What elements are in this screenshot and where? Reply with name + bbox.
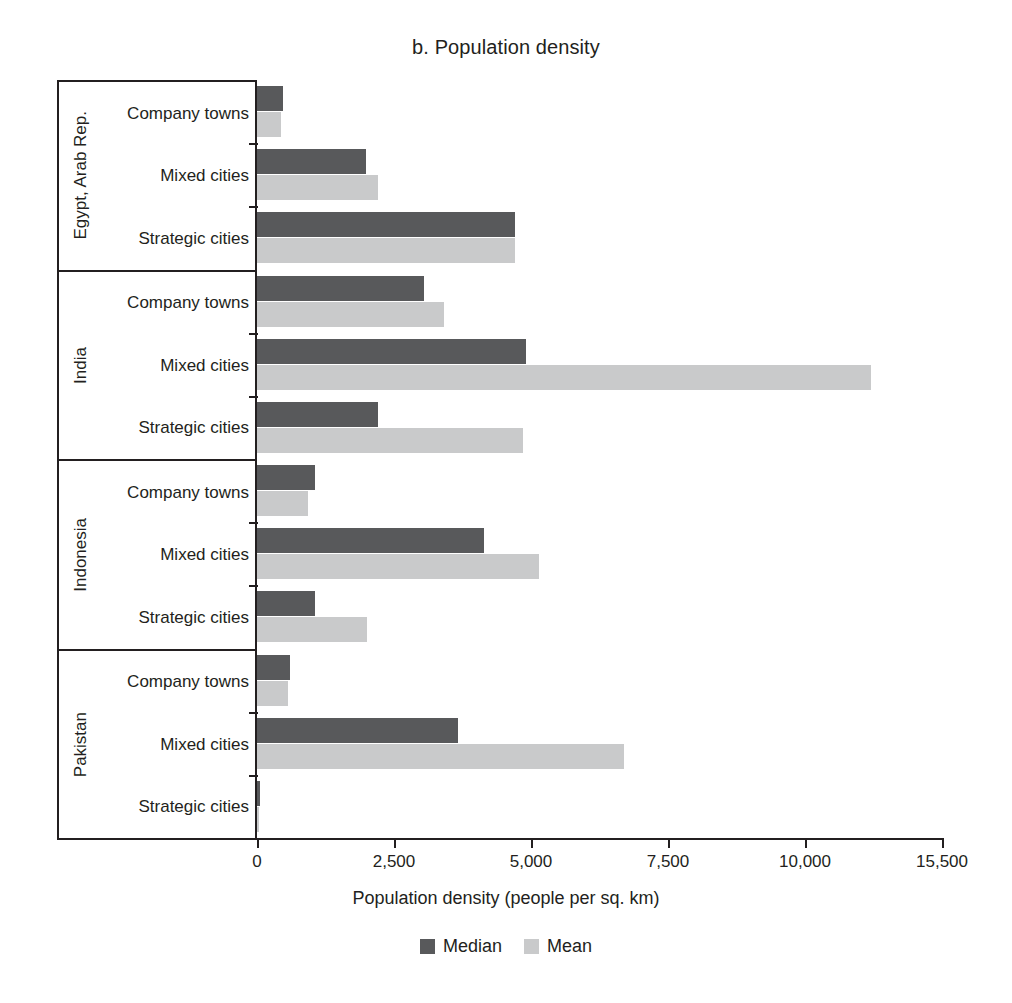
- bar-median: [257, 276, 424, 301]
- category-label: Strategic cities: [138, 419, 249, 436]
- bar-mean: [257, 175, 378, 200]
- category-label-list: Company townsMixed citiesStrategic citie…: [103, 651, 257, 839]
- country-label: Pakistan: [59, 651, 103, 839]
- country-group-4: PakistanCompany townsMixed citiesStrateg…: [59, 651, 257, 841]
- bar-mean: [257, 365, 871, 390]
- legend-label-mean: Mean: [547, 936, 592, 957]
- category-label: Mixed cities: [160, 546, 249, 563]
- category-label: Mixed cities: [160, 167, 249, 184]
- category-axis-tick: [249, 206, 258, 208]
- category-label-list: Company townsMixed citiesStrategic citie…: [103, 82, 257, 270]
- x-axis-tick: [668, 838, 670, 848]
- country-label: Egypt, Arab Rep.: [59, 82, 103, 270]
- bar-mean: [257, 428, 523, 453]
- country-label-text: Egypt, Arab Rep.: [71, 111, 91, 240]
- category-label-list: Company townsMixed citiesStrategic citie…: [103, 461, 257, 649]
- x-axis-title: Population density (people per sq. km): [0, 888, 1012, 909]
- country-label: Indonesia: [59, 461, 103, 649]
- category-axis-tick: [249, 333, 258, 335]
- bar-median: [257, 718, 458, 743]
- bar-median: [257, 591, 315, 616]
- bar-mean: [257, 491, 308, 516]
- x-axis-line: [57, 838, 943, 840]
- bar-median: [257, 86, 283, 111]
- category-label: Strategic cities: [138, 230, 249, 247]
- x-axis-tick: [805, 838, 807, 848]
- category-axis-tick: [249, 396, 258, 398]
- category-axis-tick: [249, 712, 258, 714]
- category-label: Company towns: [127, 294, 249, 311]
- category-label: Mixed cities: [160, 357, 249, 374]
- category-axis-labels: Egypt, Arab Rep.Company townsMixed citie…: [57, 80, 257, 838]
- category-label: Strategic cities: [138, 798, 249, 815]
- country-group-2: IndiaCompany townsMixed citiesStrategic …: [59, 272, 257, 462]
- country-label-text: India: [71, 347, 91, 384]
- bar-median: [257, 655, 290, 680]
- bar-median: [257, 781, 260, 806]
- x-axis-tick: [531, 838, 533, 848]
- x-axis-tick-label: 10,000: [779, 852, 831, 872]
- bar-median: [257, 212, 515, 237]
- category-label: Company towns: [127, 673, 249, 690]
- legend-label-median: Median: [443, 936, 502, 957]
- x-axis-tick-label: 2,500: [373, 852, 416, 872]
- country-group-1: Egypt, Arab Rep.Company townsMixed citie…: [59, 82, 257, 272]
- bar-mean: [257, 554, 539, 579]
- legend-swatch-mean: [524, 939, 539, 954]
- x-axis-tick-label: 5,000: [510, 852, 553, 872]
- bar-mean: [257, 617, 367, 642]
- bar-mean: [257, 744, 624, 769]
- bar-mean: [257, 238, 515, 263]
- bar-median: [257, 528, 484, 553]
- legend-item-mean: Mean: [524, 936, 592, 957]
- x-axis-tick: [942, 838, 944, 848]
- category-axis-tick: [249, 585, 258, 587]
- x-axis-tick: [257, 838, 259, 848]
- bar-mean: [257, 302, 444, 327]
- category-axis-tick: [249, 143, 258, 145]
- chart-title: b. Population density: [0, 36, 1012, 59]
- category-label: Strategic cities: [138, 609, 249, 626]
- bar-median: [257, 149, 366, 174]
- x-axis-tick-label: 7,500: [647, 852, 690, 872]
- country-label-text: Pakistan: [71, 712, 91, 777]
- x-axis-tick: [394, 838, 396, 848]
- plot-area: [257, 80, 942, 838]
- bar-mean: [257, 807, 259, 832]
- country-label: India: [59, 272, 103, 460]
- bar-median: [257, 339, 526, 364]
- bar-mean: [257, 681, 288, 706]
- category-label: Mixed cities: [160, 736, 249, 753]
- category-label: Company towns: [127, 484, 249, 501]
- bar-median: [257, 465, 315, 490]
- category-label-list: Company townsMixed citiesStrategic citie…: [103, 272, 257, 460]
- country-label-text: Indonesia: [71, 518, 91, 592]
- legend-swatch-median: [420, 939, 435, 954]
- country-group-3: IndonesiaCompany townsMixed citiesStrate…: [59, 461, 257, 651]
- bar-mean: [257, 112, 281, 137]
- chart-legend: Median Mean: [0, 936, 1012, 957]
- x-axis-tick-label: 15,500: [916, 852, 968, 872]
- category-axis-tick: [249, 775, 258, 777]
- bar-median: [257, 402, 378, 427]
- category-axis-tick: [249, 522, 258, 524]
- x-axis-tick-label: 0: [252, 852, 261, 872]
- category-label: Company towns: [127, 105, 249, 122]
- chart-page: b. Population density Egypt, Arab Rep.Co…: [0, 0, 1012, 1003]
- legend-item-median: Median: [420, 936, 502, 957]
